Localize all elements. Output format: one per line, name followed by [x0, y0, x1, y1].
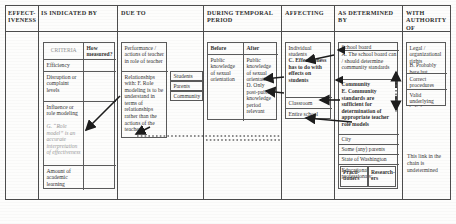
header-during-temporal-period: DURING TEMPORAL PERIOD	[207, 9, 279, 24]
due-to-grid: Performance / actions of teacher in role…	[121, 42, 167, 138]
criteria-col-header: CRITERIA	[44, 43, 83, 59]
adb-row-some-parents: Some (any) parents	[339, 145, 399, 154]
affecting-row-individual-students-annotation: C. Effectiveness has to do with effects …	[286, 57, 332, 97]
professionals-practitioners: Practi-tioners	[340, 166, 368, 187]
column-divider-3	[203, 5, 204, 200]
header-is-indicated-by: IS INDICATED BY	[41, 9, 113, 16]
header-rule	[5, 31, 451, 32]
due-to-row-relationships: Relationships with: F. Role modeling is …	[122, 72, 168, 139]
temporal-before-text: Public knowledge of sexual orientation	[208, 55, 243, 121]
affecting-grid: Individual students C. Effectiveness has…	[285, 42, 331, 119]
adb-row-city: City	[339, 135, 399, 144]
authority-row-legal-rights: Legal / organizational rights	[407, 43, 447, 63]
affecting-row-individual-students: Individual students	[286, 43, 332, 57]
affecting-row-entire-school: Entire school	[286, 109, 332, 120]
criteria-row-influence: Influence or role modeling	[44, 102, 83, 124]
affecting-row-classroom: Classroom	[286, 98, 332, 108]
adb-row-community-annotation: E. Community standards are sufficient fo…	[339, 88, 399, 134]
header-as-determined-by: AS DETERMINED BY	[338, 9, 400, 24]
authority-row-correct-procedures: Correct procedures	[407, 74, 447, 89]
adb-row-state-of-washington: State of Washington	[339, 155, 399, 164]
criteria-grid-vline	[83, 43, 84, 190]
header-with-authority-of: WITH AUTHORITY OF	[406, 9, 450, 31]
criteria-row-academic-learning: Amount of academic learning	[44, 166, 83, 190]
relationship-target-students: Students	[170, 71, 203, 81]
criteria-row-influence-annotation: G. “Role model” is an accurate interpret…	[44, 123, 83, 165]
authority-row-valid-beliefs: Valid underlying beliefs	[407, 90, 447, 107]
due-to-row-performance: Performance / actions of teacher in role…	[122, 43, 168, 71]
how-measured-col-header: How measured?	[84, 43, 116, 59]
column-divider-6	[402, 5, 403, 200]
temporal-after-text: Public knowledge of sexual orientation	[244, 55, 278, 83]
authority-grid: Legal / organizational rights B. Probabl…	[406, 42, 446, 106]
header-effectiveness: EFFECT-IVENESS	[8, 9, 38, 24]
relationship-target-parents: Parents	[170, 81, 203, 91]
temporal-after-note: D. Only post-public knowledge period rel…	[244, 82, 278, 121]
column-divider-5	[334, 5, 335, 200]
professionals-group: Practi-tioners Research-ers	[340, 166, 396, 187]
adb-row-school-board-annotation: A. The school board can / should determi…	[339, 51, 399, 79]
column-divider-1	[38, 5, 39, 200]
column-divider-2	[117, 5, 118, 200]
criteria-row-efficiency: Efficiency	[44, 60, 83, 71]
authority-row-legal-rights-annotation: B. Probably here but	[407, 62, 447, 73]
criteria-grid: CRITERIA How measured? Efficiency Disrup…	[43, 42, 115, 189]
column-divider-4	[281, 5, 282, 200]
scanned-page: EFFECT-IVENESS IS INDICATED BY DUE TO DU…	[0, 0, 456, 224]
temporal-header-after: After	[244, 43, 278, 54]
authority-footnote: This link in the chain is undetermined	[407, 153, 449, 173]
professionals-researchers: Research-ers	[368, 166, 396, 187]
relationship-targets-group: Students Parents Community	[170, 71, 203, 101]
temporal-header-before: Before	[208, 43, 243, 54]
adb-row-school-board: School board	[339, 43, 399, 50]
header-affecting: AFFECTING	[285, 9, 333, 16]
criteria-row-disruption: Disruption or complaint levels	[44, 72, 83, 101]
header-due-to: DUE TO	[121, 9, 199, 16]
temporal-grid: Before After Public knowledge of sexual …	[207, 42, 277, 120]
relationship-target-community: Community	[170, 91, 203, 101]
